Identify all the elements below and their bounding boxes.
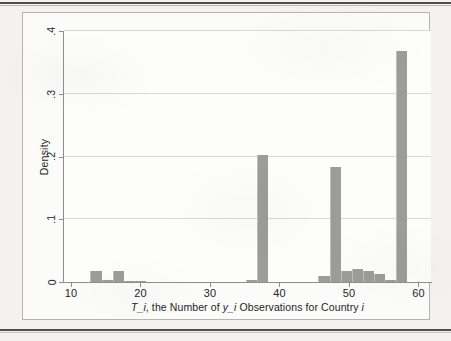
y-tick-label-text: .3 xyxy=(46,89,57,98)
histogram-bar xyxy=(246,280,257,283)
x-tick-label: 60 xyxy=(403,288,433,299)
y-tick-label: .1 xyxy=(45,213,58,225)
y-tick-1 xyxy=(59,219,63,220)
x-tick-label: 50 xyxy=(334,288,364,299)
histogram-bar xyxy=(257,155,268,282)
page-rule-bottom-secondary xyxy=(0,332,451,333)
histogram-bar xyxy=(102,280,113,282)
histogram-bar xyxy=(135,281,146,282)
chart-frame: Density 0.1.2.3.4 102030405060 T_i, the … xyxy=(22,12,430,320)
histogram-bar xyxy=(90,271,101,282)
plot-background xyxy=(64,31,431,282)
figure-page: Density 0.1.2.3.4 102030405060 T_i, the … xyxy=(0,0,451,341)
y-tick-4 xyxy=(59,31,63,32)
histogram-bar xyxy=(341,271,352,282)
x-tick-label: 10 xyxy=(56,288,86,299)
page-rule-top-secondary xyxy=(0,5,451,6)
y-tick-0 xyxy=(59,282,63,283)
x-axis-title-text: Observations for Country xyxy=(236,301,361,313)
y-tick-label-text: .2 xyxy=(46,152,57,161)
x-axis-title-text: , the Number of xyxy=(146,301,223,313)
gridline-y-2 xyxy=(64,156,431,157)
gridline-y-1 xyxy=(64,218,431,219)
page-rule-top xyxy=(0,2,451,4)
histogram-bar xyxy=(352,269,363,282)
y-tick-3 xyxy=(59,94,63,95)
histogram-bar xyxy=(385,280,396,283)
histogram-bar xyxy=(330,167,341,282)
x-tick-label: 30 xyxy=(195,288,225,299)
histogram-bar xyxy=(124,281,135,282)
x-axis-line xyxy=(63,282,432,283)
y-tick-label: 0 xyxy=(45,276,58,288)
x-tick-label: 40 xyxy=(264,288,294,299)
y-tick-label: .3 xyxy=(45,88,58,100)
x-axis-title-math: i xyxy=(362,301,364,313)
gridline-y-4 xyxy=(64,30,431,31)
y-tick-label-text: 0 xyxy=(46,279,57,285)
x-tick-label: 20 xyxy=(125,288,155,299)
y-tick-label: .4 xyxy=(45,25,58,37)
x-axis-title-math: y_i xyxy=(223,301,237,313)
y-tick-label-text: .4 xyxy=(46,27,57,36)
y-tick-2 xyxy=(59,157,63,158)
histogram-bar xyxy=(396,51,407,282)
histogram-bar xyxy=(363,271,374,282)
x-axis-title: T_i, the Number of y_i Observations for … xyxy=(64,301,431,313)
y-axis-title-wrap: Density xyxy=(23,31,41,283)
page-rule-bottom xyxy=(0,329,451,331)
gridline-y-3 xyxy=(64,93,431,94)
plot-region xyxy=(64,31,431,282)
x-axis-title-math: T_i xyxy=(131,301,146,313)
histogram-bar xyxy=(318,276,329,282)
histogram-bar xyxy=(113,271,124,282)
histogram-bar xyxy=(374,274,385,282)
y-tick-label-text: .1 xyxy=(46,215,57,224)
y-tick-label: .2 xyxy=(45,151,58,163)
